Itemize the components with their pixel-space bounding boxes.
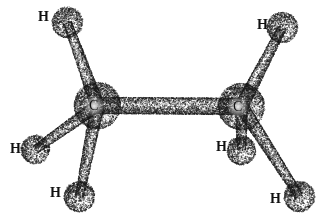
- atom-label-hydrogen-bottom-left: H: [50, 186, 61, 200]
- atom-label-hydrogen-top-left: H: [38, 10, 49, 24]
- atom-label-hydrogen-bottom-right: H: [270, 192, 281, 206]
- atom-label-hydrogen-top-right: H: [257, 18, 268, 32]
- atom-label-hydrogen-mid-left: H: [10, 142, 21, 156]
- atom-label-carbon-left: C: [89, 99, 98, 113]
- molecule-illustration: [0, 0, 324, 222]
- atom-label-carbon-right: C: [233, 100, 242, 114]
- molecule-figure: H H H H H H C C: [0, 0, 324, 222]
- atom-label-hydrogen-mid-right: H: [216, 140, 227, 154]
